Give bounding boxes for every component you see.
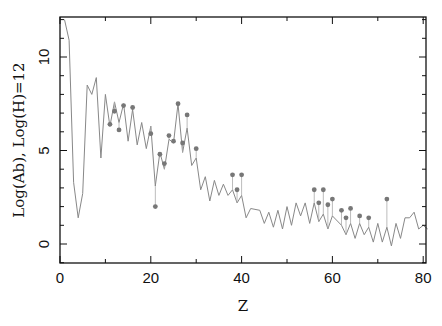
data-point (235, 187, 240, 192)
data-point (194, 146, 199, 151)
data-point (348, 206, 353, 211)
plot-area (65, 20, 428, 246)
data-point (366, 215, 371, 220)
data-point (121, 103, 126, 108)
x-axis-label: Z (238, 297, 248, 315)
data-point (321, 187, 326, 192)
x-tick-label: 60 (324, 269, 341, 286)
x-tick-label: 80 (415, 269, 432, 286)
data-point (157, 152, 162, 157)
data-point (330, 197, 335, 202)
axes: 0204060800510 (35, 17, 432, 286)
data-point (108, 122, 113, 127)
data-point (325, 202, 330, 207)
data-point (167, 133, 172, 138)
data-point (344, 215, 349, 220)
data-point (185, 113, 190, 118)
data-point (130, 105, 135, 110)
abundance-chart: 0204060800510 Z Log(Ab), Log(H)=12 (0, 0, 442, 326)
data-point (180, 141, 185, 146)
data-point (176, 101, 181, 106)
y-tick-label: 0 (35, 240, 52, 248)
y-tick-label: 5 (35, 146, 52, 154)
data-point (117, 128, 122, 133)
data-point (171, 139, 176, 144)
data-point (316, 200, 321, 205)
data-point (162, 161, 167, 166)
x-tick-label: 0 (56, 269, 64, 286)
data-point (312, 187, 317, 192)
plot-frame (60, 17, 426, 263)
data-point (239, 172, 244, 177)
y-axis-label: Log(Ab), Log(H)=12 (10, 62, 28, 217)
solar-abundance-line (65, 20, 428, 246)
data-point (384, 197, 389, 202)
y-tick-label: 10 (35, 49, 52, 66)
data-point (230, 172, 235, 177)
data-point (148, 131, 153, 136)
x-tick-label: 40 (233, 269, 250, 286)
x-tick-label: 20 (142, 269, 159, 286)
data-point (357, 214, 362, 219)
data-point (112, 109, 117, 114)
data-point (339, 208, 344, 213)
data-point (153, 204, 158, 209)
